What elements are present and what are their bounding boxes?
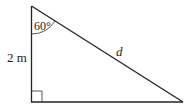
right-angle-marker [32, 91, 43, 102]
angle-label: 60° [34, 19, 51, 33]
hypotenuse-label: d [116, 44, 123, 59]
triangle-diagram: 60° 2 m d [0, 0, 195, 110]
hypotenuse [32, 6, 184, 102]
vertical-side-label: 2 m [7, 50, 27, 65]
